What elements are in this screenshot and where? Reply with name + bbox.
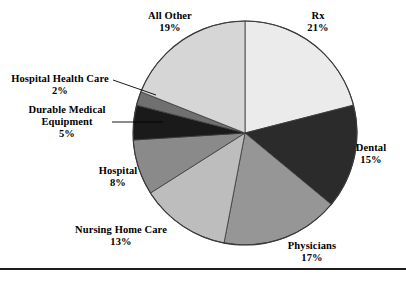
pie-label-hospital-value: 8% bbox=[84, 177, 152, 189]
pie-label-nursing-home-care: Nursing Home Care 13% bbox=[58, 224, 184, 248]
bottom-divider-rule bbox=[0, 268, 406, 270]
pie-slices bbox=[133, 21, 357, 245]
pie-label-physicians: Physicians 17% bbox=[272, 240, 352, 264]
pie-chart-figure: All Other 19% Rx 21% Dental 15% Physicia… bbox=[0, 0, 406, 281]
pie-label-hospital-health-care-name: Hospital Health Care bbox=[8, 73, 112, 85]
pie-label-physicians-value: 17% bbox=[272, 252, 352, 264]
pie-label-durable-medical-equipment-name-line2: Equipment bbox=[22, 116, 112, 128]
pie-label-all-other-value: 19% bbox=[124, 22, 216, 34]
pie-label-dental-name: Dental bbox=[343, 142, 399, 154]
pie-label-all-other-name: All Other bbox=[124, 10, 216, 22]
pie-label-rx: Rx 21% bbox=[288, 10, 348, 34]
pie-label-hospital-health-care: Hospital Health Care 2% bbox=[8, 73, 112, 97]
pie-label-durable-medical-equipment: Durable Medical Equipment 5% bbox=[22, 104, 112, 140]
pie-label-dental: Dental 15% bbox=[343, 142, 399, 166]
pie-label-nursing-home-care-value: 13% bbox=[58, 236, 184, 248]
pie-label-durable-medical-equipment-value: 5% bbox=[22, 128, 112, 140]
pie-label-hospital-health-care-value: 2% bbox=[8, 85, 112, 97]
pie-label-all-other: All Other 19% bbox=[124, 10, 216, 34]
pie-label-durable-medical-equipment-name-line1: Durable Medical bbox=[22, 104, 112, 116]
pie-label-rx-value: 21% bbox=[288, 22, 348, 34]
pie-label-nursing-home-care-name: Nursing Home Care bbox=[58, 224, 184, 236]
pie-label-dental-value: 15% bbox=[343, 154, 399, 166]
pie-label-hospital: Hospital 8% bbox=[84, 165, 152, 189]
pie-label-rx-name: Rx bbox=[288, 10, 348, 22]
pie-label-physicians-name: Physicians bbox=[272, 240, 352, 252]
pie-label-hospital-name: Hospital bbox=[84, 165, 152, 177]
